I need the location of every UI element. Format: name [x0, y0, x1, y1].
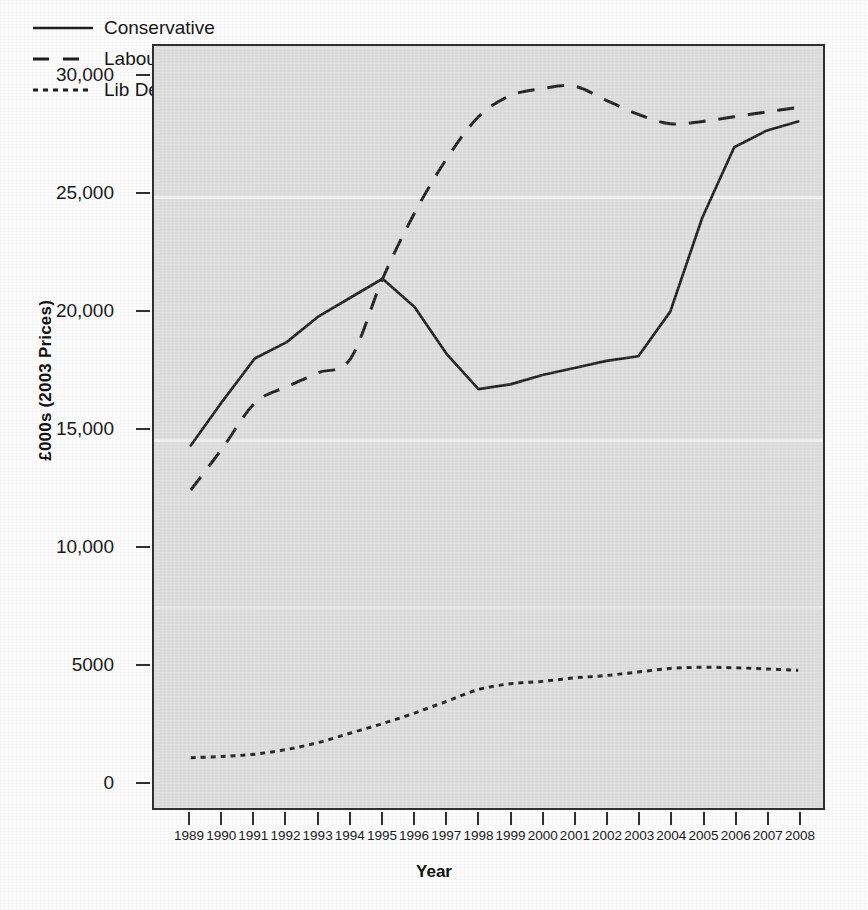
x-tick-label: 2008	[785, 828, 815, 843]
y-tick-label: 10,000	[56, 536, 114, 558]
series-line-conservative	[191, 121, 798, 445]
x-tick-mark	[799, 812, 801, 825]
y-tick-label: 5000	[72, 654, 114, 676]
x-tick-label: 1993	[303, 828, 333, 843]
y-axis-ticks: 0500010,00015,00020,00025,00030,000	[0, 44, 136, 810]
x-tick-label: 2000	[528, 828, 558, 843]
x-tick-mark	[510, 812, 512, 825]
x-tick-mark	[477, 812, 479, 825]
y-tick-mark	[136, 74, 150, 76]
y-tick-mark	[136, 192, 150, 194]
x-tick-mark	[220, 812, 222, 825]
x-tick-label: 1994	[335, 828, 365, 843]
x-tick-mark	[638, 812, 640, 825]
series-line-labour	[191, 86, 798, 490]
series-line-lib-dem	[191, 667, 798, 757]
x-tick-mark	[188, 812, 190, 825]
y-tick-mark	[136, 782, 150, 784]
x-tick-label: 2004	[656, 828, 686, 843]
x-tick-mark	[670, 812, 672, 825]
legend-label-conservative: Conservative	[104, 17, 215, 39]
x-tick-mark	[349, 812, 351, 825]
x-tick-label: 1989	[174, 828, 204, 843]
y-tick-label: 25,000	[56, 182, 114, 204]
x-axis-title: Year	[0, 862, 868, 882]
x-tick-label: 1997	[431, 828, 461, 843]
x-tick-label: 1996	[399, 828, 429, 843]
x-tick-label: 2005	[688, 828, 718, 843]
x-tick-label: 2006	[721, 828, 751, 843]
x-tick-mark	[574, 812, 576, 825]
x-tick-mark	[703, 812, 705, 825]
y-tick-mark	[136, 310, 150, 312]
x-tick-label: 1991	[238, 828, 268, 843]
x-tick-label: 2001	[560, 828, 590, 843]
x-tick-label: 1998	[463, 828, 493, 843]
legend-item-conservative: Conservative	[30, 12, 260, 43]
x-tick-mark	[317, 812, 319, 825]
x-tick-mark	[606, 812, 608, 825]
page-background: Conservative Labour Lib Dem £000s (2003 …	[0, 0, 868, 910]
y-tick-mark	[136, 546, 150, 548]
x-tick-mark	[252, 812, 254, 825]
x-tick-label: 2007	[753, 828, 783, 843]
y-tick-label: 20,000	[56, 300, 114, 322]
plot-area	[152, 44, 825, 810]
x-tick-label: 1990	[206, 828, 236, 843]
x-tick-mark	[767, 812, 769, 825]
x-tick-mark	[735, 812, 737, 825]
y-tick-label: 0	[103, 772, 114, 794]
y-tick-mark	[136, 664, 150, 666]
x-tick-mark	[284, 812, 286, 825]
x-tick-mark	[542, 812, 544, 825]
x-tick-label: 1999	[496, 828, 526, 843]
y-tick-label: 15,000	[56, 418, 114, 440]
y-tick-label: 30,000	[56, 64, 114, 86]
x-tick-mark	[445, 812, 447, 825]
x-tick-label: 1995	[367, 828, 397, 843]
x-tick-label: 1992	[270, 828, 300, 843]
x-tick-mark	[381, 812, 383, 825]
x-tick-label: 2003	[624, 828, 654, 843]
legend-key-solid-line-icon	[30, 21, 96, 35]
x-tick-label: 2002	[592, 828, 622, 843]
y-tick-mark	[136, 428, 150, 430]
x-axis-ticks: 1989199019911992199319941995199619971998…	[152, 812, 825, 856]
chart-series-canvas	[154, 46, 823, 808]
x-tick-mark	[413, 812, 415, 825]
